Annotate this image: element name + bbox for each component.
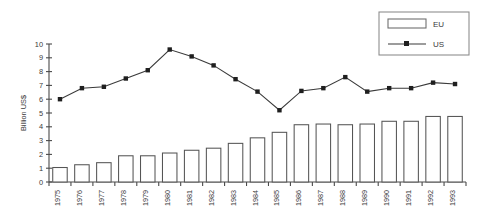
bar-eu (404, 121, 418, 182)
bar-eu (426, 116, 440, 182)
x-tick-label: 1984 (251, 190, 260, 206)
x-tick-label: 1987 (316, 190, 325, 206)
us-data-point (409, 86, 413, 90)
bar-eu (228, 143, 242, 182)
us-data-point (387, 86, 391, 90)
us-data-point (321, 86, 325, 90)
chart-container: 012345678910 Billion US$ 197519761977197… (0, 0, 478, 222)
x-tick-label: 1978 (119, 190, 128, 206)
x-axis-labels: 1975197619771978197919801981198219831984… (53, 190, 457, 206)
x-tick-label: 1993 (448, 190, 457, 206)
y-tick-label: 2 (39, 150, 43, 159)
bar-eu (162, 153, 176, 182)
us-data-point (146, 68, 150, 72)
bar-line-combo-chart: 012345678910 Billion US$ 197519761977197… (0, 0, 478, 222)
legend-swatch-eu (388, 19, 426, 28)
eu-bar-series (53, 116, 463, 182)
x-tick-label: 1982 (207, 190, 216, 206)
legend-label-eu: EU (433, 20, 444, 29)
bar-eu (97, 163, 111, 182)
us-line-path (60, 50, 455, 111)
us-data-point (255, 89, 259, 93)
bar-eu (294, 125, 308, 182)
us-data-point (431, 80, 435, 84)
us-data-point (233, 77, 237, 81)
us-data-point (124, 76, 128, 80)
y-tick-label: 4 (39, 122, 43, 131)
y-tick-label: 5 (39, 109, 43, 118)
x-tick-label: 1989 (360, 190, 369, 206)
bar-eu (141, 156, 155, 182)
us-data-point (299, 89, 303, 93)
x-axis-ticks (49, 182, 466, 186)
x-tick-label: 1979 (141, 190, 150, 206)
us-data-point (168, 47, 172, 51)
y-tick-label: 8 (39, 67, 43, 76)
x-tick-label: 1977 (97, 190, 106, 206)
bar-eu (382, 121, 396, 182)
bar-eu (338, 125, 352, 182)
us-data-point (80, 86, 84, 90)
us-data-point (211, 63, 215, 67)
bar-eu (206, 148, 220, 182)
us-data-point (453, 82, 457, 86)
y-axis-title: Billion US$ (19, 95, 28, 131)
bar-eu (272, 132, 286, 182)
y-tick-label: 7 (39, 81, 43, 90)
bar-eu (448, 116, 462, 182)
x-axis-group: 1975197619771978197919801981198219831984… (49, 182, 466, 206)
legend-border (379, 12, 469, 55)
y-tick-label: 0 (39, 178, 43, 187)
x-tick-label: 1976 (75, 190, 84, 206)
bar-eu (316, 124, 330, 182)
x-tick-label: 1992 (426, 190, 435, 206)
x-tick-label: 1988 (338, 190, 347, 206)
x-tick-label: 1980 (163, 190, 172, 206)
y-axis-group: 012345678910 Billion US$ (19, 40, 52, 187)
us-data-point (365, 89, 369, 93)
x-tick-label: 1983 (229, 190, 238, 206)
us-data-point (102, 85, 106, 89)
bar-eu (250, 138, 264, 182)
bar-eu (360, 124, 374, 182)
legend-marker-us (404, 41, 409, 46)
us-data-point (189, 54, 193, 58)
y-tick-label: 1 (39, 164, 43, 173)
x-tick-label: 1981 (185, 190, 194, 206)
us-data-point (343, 75, 347, 79)
bar-eu (53, 168, 67, 182)
y-tick-label: 6 (39, 95, 43, 104)
us-data-point (277, 108, 281, 112)
bar-eu (75, 165, 89, 182)
us-line-series (58, 47, 457, 112)
x-tick-label: 1991 (404, 190, 413, 206)
x-tick-label: 1975 (53, 190, 62, 206)
bar-eu (184, 150, 198, 182)
us-data-point (58, 97, 62, 101)
x-tick-label: 1986 (294, 190, 303, 206)
y-tick-label: 9 (39, 53, 43, 62)
y-tick-label: 10 (35, 40, 43, 49)
x-tick-label: 1985 (272, 190, 281, 206)
legend-label-us: US (433, 40, 444, 49)
x-tick-label: 1990 (382, 190, 391, 206)
y-tick-label: 3 (39, 136, 43, 145)
chart-legend: EU US (379, 12, 469, 55)
bar-eu (119, 156, 133, 182)
